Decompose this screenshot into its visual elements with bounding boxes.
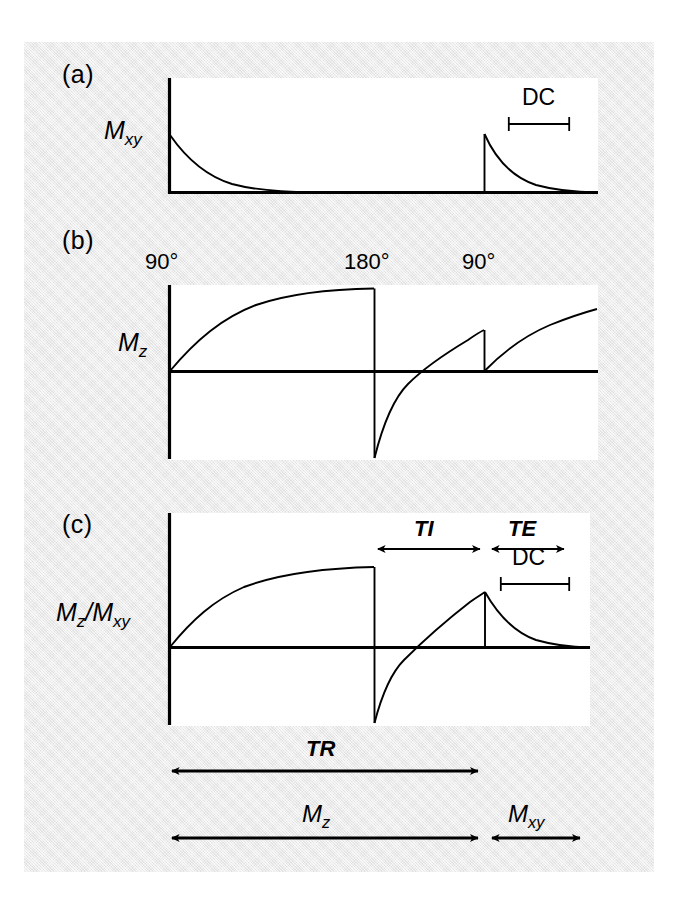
mxy-span-label-main: M [508,800,528,827]
mz-span-label: Mz [302,802,330,830]
panel-b-axis-label: Mz [118,330,147,360]
panel-c-axis-label-slash: /M [85,598,113,626]
mz-span-label-sub: z [322,813,330,831]
tr-label: TR [306,738,335,760]
panel-a-axis-label-sub: xy [125,130,142,149]
panel-a-tag: (a) [62,62,94,87]
pulse-label-180: 180° [344,251,390,273]
ti-label: TI [414,518,434,540]
te-label: TE [508,518,536,540]
panel-a-axis-label: Mxy [104,118,142,148]
mz-span-label-main: M [302,800,322,827]
mxy-span-label: Mxy [508,802,544,830]
mri-pulse-sequence-figure: (a) Mxy DC (b) Mz 90° 180° 90° (c) Mz/Mx… [0,0,684,919]
panel-c-tag: (c) [62,512,93,537]
panel-b-axis-label-sub: z [139,342,148,361]
pulse-label-90-first: 90° [145,251,178,273]
panel-b-tag: (b) [62,228,94,253]
panel-c-dc-label: DC [512,546,545,569]
mxy-span-label-sub: xy [528,813,544,831]
panel-c-axis-label-main: M [56,598,77,626]
pulse-label-90-second: 90° [462,251,495,273]
panel-c-axis-label-sub2: xy [113,612,130,631]
panel-a-dc-label: DC [522,86,555,109]
panel-b-plot-area [168,285,598,460]
panel-c-axis-label: Mz/Mxy [56,600,130,630]
panel-a-axis-label-main: M [104,116,125,144]
panel-b-axis-label-main: M [118,328,139,356]
